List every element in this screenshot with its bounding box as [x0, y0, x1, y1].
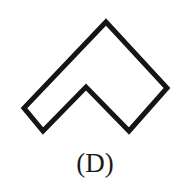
figure-caption-label: (D) [0, 148, 190, 178]
figure-panel: (D) [0, 0, 190, 184]
